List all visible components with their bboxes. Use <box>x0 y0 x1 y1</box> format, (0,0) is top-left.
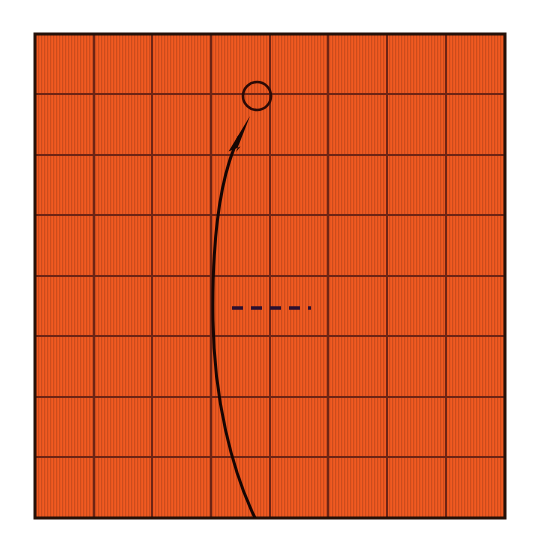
orange-grid-panel <box>35 34 505 518</box>
figure-canvas <box>0 0 539 554</box>
figure-root <box>0 0 539 554</box>
